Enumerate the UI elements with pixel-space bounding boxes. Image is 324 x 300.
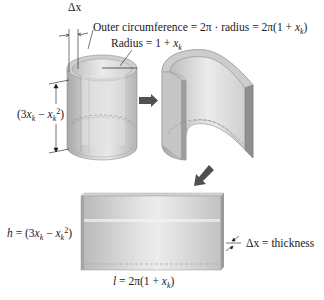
close-paren: ): [170, 275, 174, 287]
cut-shell: [162, 50, 253, 160]
height-prefix: (3: [17, 108, 27, 120]
k-sub: k: [178, 43, 182, 52]
radius-label: Radius = 1 + xk: [111, 38, 182, 52]
delta-x-text: Δx: [246, 237, 259, 249]
thickness-label: Δx = thickness: [246, 238, 314, 250]
close-paren: ): [60, 108, 64, 120]
h-eq: = (3: [13, 227, 35, 239]
minus: −: [35, 108, 47, 120]
delta-x-text: Δx: [68, 1, 81, 13]
slab-height-label: h = (3xk − xk2): [7, 227, 72, 242]
close-paren: ): [68, 227, 72, 239]
minus: −: [43, 227, 55, 239]
thickness-marker: [226, 236, 241, 251]
radius-text: Radius = 1 +: [111, 37, 173, 49]
close-paren: ): [304, 21, 308, 33]
delta-x-label: Δx: [68, 2, 81, 14]
thickness-text: = thickness: [259, 237, 314, 249]
outer-circumference-text: Outer circumference = 2π · radius = 2π(1…: [93, 21, 295, 33]
flattened-slab: [81, 193, 224, 270]
cylindrical-shell: [67, 55, 137, 160]
l-eq: = 2π(1 +: [116, 275, 162, 287]
slab-length-label: l = 2π(1 + xk): [113, 276, 174, 290]
outer-circumference-label: Outer circumference = 2π · radius = 2π(1…: [93, 22, 307, 36]
right-arrow-icon: [139, 94, 158, 107]
height-bracket-label: (3xk − xk2): [17, 108, 64, 123]
down-left-arrow-icon: [194, 165, 214, 186]
